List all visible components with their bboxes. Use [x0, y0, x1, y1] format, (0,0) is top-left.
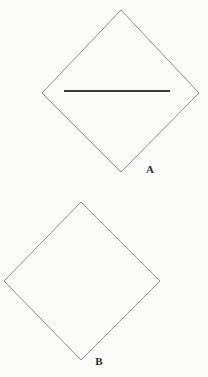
figure-a-label: A: [146, 163, 154, 175]
figure-sheet: A B: [0, 0, 208, 377]
figures-canvas: A B: [0, 0, 208, 377]
figure-b-label: B: [95, 355, 103, 367]
figure-b-diamond: [4, 202, 160, 360]
figure-a-group: A: [42, 10, 199, 175]
figure-b-group: B: [4, 202, 160, 367]
